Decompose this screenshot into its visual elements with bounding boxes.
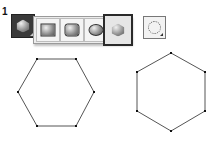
vertex-anchor-point[interactable]	[204, 71, 206, 73]
drawing-canvas[interactable]	[0, 0, 219, 145]
vertex-anchor-point[interactable]	[170, 52, 172, 54]
flat-top-hexagon[interactable]	[18, 59, 94, 126]
vertex-anchor-point[interactable]	[136, 71, 138, 73]
vertex-anchor-point[interactable]	[170, 130, 172, 132]
vertex-anchor-point[interactable]	[17, 91, 19, 93]
vertex-anchor-point[interactable]	[204, 110, 206, 112]
vertex-anchor-point[interactable]	[75, 58, 77, 60]
vertex-anchor-point[interactable]	[136, 110, 138, 112]
vertex-anchor-point[interactable]	[75, 125, 77, 127]
pointy-top-hexagon[interactable]	[137, 53, 205, 131]
vertex-anchor-point[interactable]	[93, 91, 95, 93]
vertex-anchor-point[interactable]	[36, 125, 38, 127]
vertex-anchor-point[interactable]	[36, 58, 38, 60]
